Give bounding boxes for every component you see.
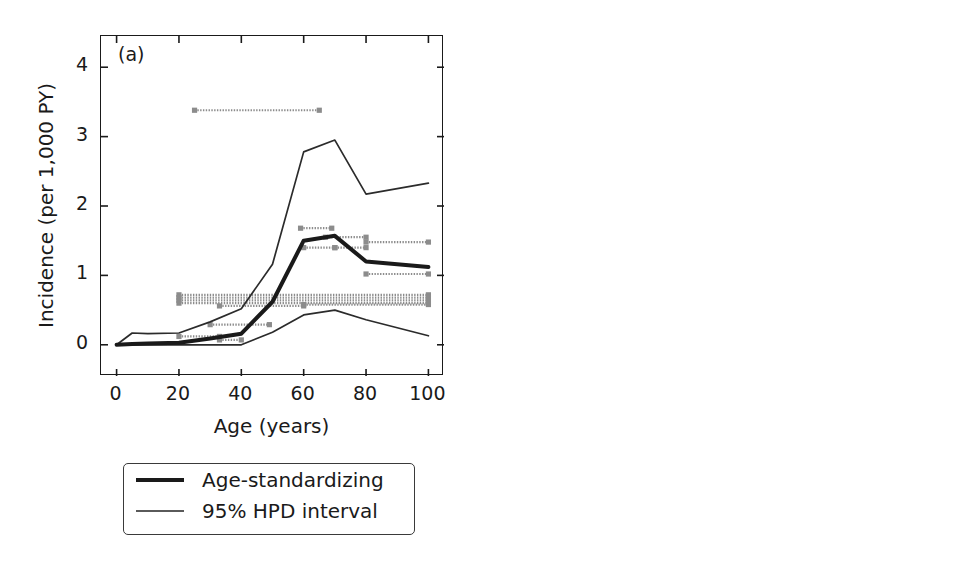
observation-endpoint-marker (426, 302, 431, 307)
legend-line-swatch-thin (136, 510, 184, 512)
legend-label-main: Age-standardizing (202, 468, 384, 492)
observation-endpoint-marker (329, 226, 334, 231)
series-line-95-hpd-upper (117, 140, 429, 345)
observation-endpoint-marker (217, 303, 222, 308)
observation-endpoint-marker (363, 271, 368, 276)
x-tick-label: 0 (86, 382, 146, 404)
observation-endpoint-marker (363, 239, 368, 244)
figure-root: Incidence (per 1,000 PY) (a) 01234 02040… (0, 0, 962, 571)
observation-endpoint-marker (298, 226, 303, 231)
legend-a: Age-standardizing 95% HPD interval (123, 463, 415, 535)
legend-item-main[interactable]: Age-standardizing (124, 464, 414, 495)
observation-endpoint-marker (239, 337, 244, 342)
observation-endpoint-marker (363, 235, 368, 240)
observation-endpoint-marker (317, 108, 322, 113)
observation-endpoint-marker (176, 334, 181, 339)
legend-item-hpd[interactable]: 95% HPD interval (124, 495, 414, 526)
x-tick-label: 60 (273, 382, 333, 404)
observation-endpoint-marker (426, 271, 431, 276)
x-axis-label: Age (years) (100, 414, 443, 438)
y-tick-label: 3 (54, 123, 88, 145)
x-tick-label: 20 (148, 382, 208, 404)
y-tick-label: 0 (54, 331, 88, 353)
panel-b: Incidence (per 1,000 PY) (b) 01234 02040… (481, 0, 962, 571)
x-tick-label: 40 (210, 382, 270, 404)
observation-endpoint-marker (332, 245, 337, 250)
plot-area-a (100, 35, 443, 375)
panel-tag-a: (a) (118, 43, 144, 65)
observation-endpoint-marker (426, 239, 431, 244)
panel-a: Incidence (per 1,000 PY) (a) 01234 02040… (0, 0, 481, 571)
observation-endpoint-marker (267, 322, 272, 327)
y-tick-label: 1 (54, 261, 88, 283)
legend-line-swatch-thick (136, 478, 184, 482)
chart-canvas-a (101, 36, 444, 376)
observation-endpoint-marker (363, 245, 368, 250)
x-tick-label: 80 (335, 382, 395, 404)
series-line-95-hpd-lower (117, 310, 429, 345)
legend-label-hpd: 95% HPD interval (202, 499, 378, 523)
series-line-age-standardizing (117, 236, 429, 345)
y-tick-label: 4 (54, 53, 88, 75)
observation-endpoint-marker (192, 108, 197, 113)
x-tick-label: 100 (397, 382, 457, 404)
observation-endpoint-marker (176, 301, 181, 306)
y-tick-label: 2 (54, 192, 88, 214)
observation-endpoint-marker (301, 302, 306, 307)
